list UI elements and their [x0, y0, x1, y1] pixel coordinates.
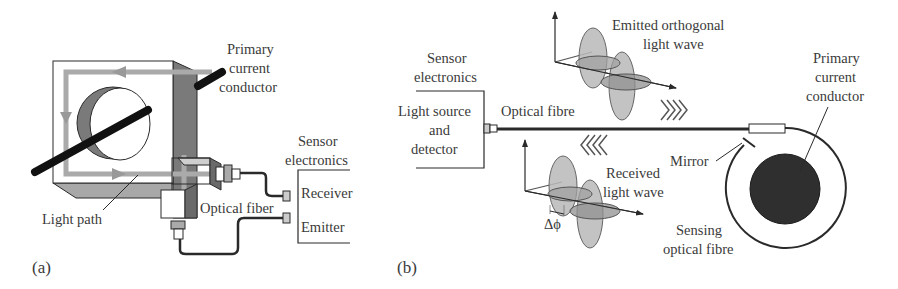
emitter-connector-nut [171, 221, 185, 229]
panel-a-label: (a) [32, 258, 51, 277]
sensor-electronics-label-1: Sensor [427, 50, 467, 66]
light-source-label-3: detector [411, 141, 458, 157]
sensing-fibre-label-1: Sensing [676, 222, 722, 238]
emitted-wave-label-1: Emitted orthogonal [612, 17, 724, 33]
primary-conductor-label-3: conductor [806, 88, 864, 104]
primary-conductor-label-2: current [815, 69, 856, 85]
panel-b-label: (b) [397, 258, 417, 277]
primary-conductor-label-1: Primary [227, 41, 274, 57]
receiver-connector [216, 167, 224, 181]
primary-conductor-leader [800, 107, 828, 171]
optical-fiber-label: Optical fiber [200, 200, 274, 216]
received-wave-label-2: light wave [603, 184, 664, 200]
primary-conductor-disc [750, 154, 820, 224]
fibre-coupler [749, 124, 785, 133]
emitter-connector-tip [174, 229, 183, 239]
primary-conductor-label-1: Primary [813, 50, 860, 66]
panel-b: Sensor electronics Light source and dete… [397, 12, 864, 277]
emitter-housing [161, 190, 185, 218]
forward-chevrons [661, 100, 687, 120]
fiber-to-receiver [240, 173, 283, 196]
fibre-connector-tip [490, 125, 497, 132]
emitter-housing-side [185, 184, 197, 218]
receiver-label: Receiver [301, 185, 353, 201]
emitted-wave-label-2: light wave [643, 36, 704, 52]
backward-chevrons [581, 135, 607, 155]
diagram-canvas: Primary current conductor Sensor electro… [0, 0, 898, 289]
mirror-label: Mirror [670, 153, 709, 169]
light-path-label: Light path [42, 211, 103, 227]
light-source-label-1: Light source [398, 103, 471, 119]
received-wave-label-1: Received [606, 165, 661, 181]
sensor-electronics-label-1: Sensor [298, 133, 338, 149]
sensor-electronics-label-2: electronics [285, 152, 348, 168]
receiver-port [283, 191, 290, 201]
sensing-fibre-label-2: optical fibre [663, 241, 733, 257]
fibre-connector [484, 124, 490, 133]
primary-conductor-label-3: conductor [219, 79, 277, 95]
panel-a: Primary current conductor Sensor electro… [32, 41, 353, 277]
optical-fibre-label: Optical fibre [501, 103, 575, 119]
emitter-port [283, 213, 290, 223]
mirror [743, 138, 755, 147]
sensor-electronics-label-2: electronics [414, 69, 477, 85]
primary-conductor-label-2: current [229, 60, 270, 76]
fiber-to-emitter [180, 218, 283, 254]
cube-bottom-face [53, 183, 172, 198]
light-source-label-2: and [429, 122, 451, 138]
emitter-label: Emitter [301, 219, 345, 235]
receiver-connector-nut [224, 165, 232, 182]
receiver-connector-tip [232, 169, 240, 179]
phase-shift-label: Δϕ [544, 216, 561, 232]
